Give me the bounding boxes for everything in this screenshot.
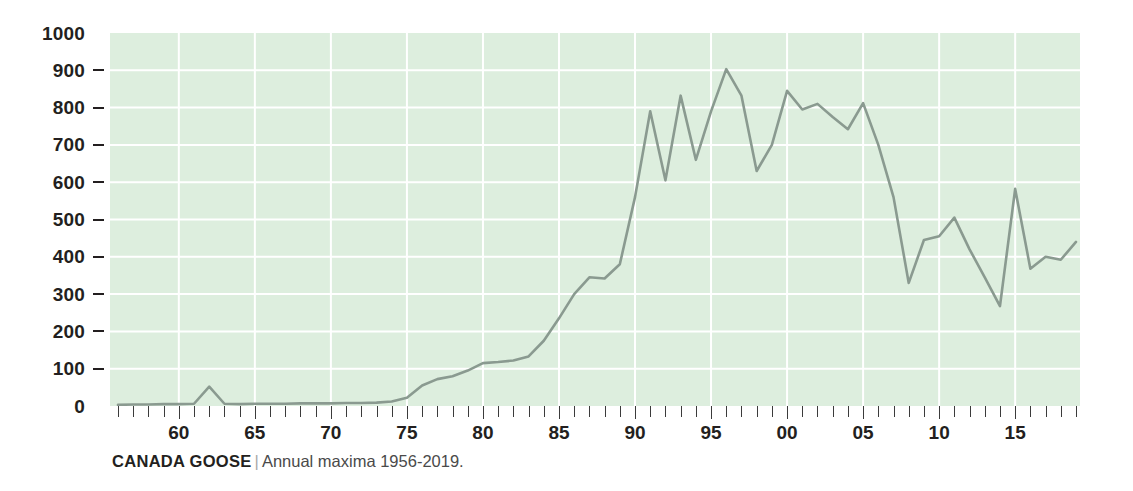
x-axis-minor-tick — [133, 406, 134, 417]
x-axis-minor-tick — [498, 406, 499, 417]
y-axis-tick-label: 200 — [53, 322, 85, 341]
x-axis-minor-tick — [544, 406, 545, 417]
x-axis-minor-tick — [1030, 406, 1031, 417]
y-axis-tick-label: 400 — [53, 247, 85, 266]
x-axis-minor-tick — [270, 406, 271, 417]
x-axis-minor-tick — [148, 406, 149, 417]
y-axis-tick-label: 1000 — [42, 24, 85, 43]
x-axis-major-tick — [255, 406, 256, 419]
x-axis-tick-label: 90 — [624, 423, 645, 442]
x-axis-minor-tick — [772, 406, 773, 417]
x-axis-minor-tick — [802, 406, 803, 417]
y-axis-tick-mark — [93, 405, 104, 407]
x-axis-major-tick — [1015, 406, 1016, 419]
x-axis-minor-tick — [377, 406, 378, 417]
x-axis-minor-tick — [757, 406, 758, 417]
x-axis: 606570758085909500051015 — [110, 406, 1080, 456]
caption-separator: | — [252, 452, 262, 470]
y-axis-tick-mark — [93, 219, 104, 221]
x-axis-minor-tick — [453, 406, 454, 417]
x-axis-major-tick — [559, 406, 560, 419]
chart-figure: 01002003004005006007008009001000 6065707… — [0, 0, 1133, 491]
x-axis-major-tick — [711, 406, 712, 419]
x-axis-minor-tick — [300, 406, 301, 417]
x-axis-minor-tick — [848, 406, 849, 417]
x-axis-minor-tick — [650, 406, 651, 417]
x-axis-minor-tick — [970, 406, 971, 417]
y-axis: 01002003004005006007008009001000 — [0, 33, 110, 406]
y-axis-tick-mark — [93, 144, 104, 146]
x-axis-minor-tick — [620, 406, 621, 417]
x-axis-tick-label: 85 — [548, 423, 569, 442]
x-axis-minor-tick — [316, 406, 317, 417]
x-axis-minor-tick — [529, 406, 530, 417]
x-axis-minor-tick — [1046, 406, 1047, 417]
x-axis-tick-label: 65 — [244, 423, 265, 442]
x-axis-tick-label: 15 — [1005, 423, 1026, 442]
x-axis-minor-tick — [164, 406, 165, 417]
x-axis-minor-tick — [726, 406, 727, 417]
series-line-annual-maxima — [118, 69, 1076, 405]
x-axis-minor-tick — [954, 406, 955, 417]
x-axis-minor-tick — [1000, 406, 1001, 417]
x-axis-major-tick — [863, 406, 864, 419]
x-axis-minor-tick — [468, 406, 469, 417]
x-axis-major-tick — [407, 406, 408, 419]
x-axis-tick-label: 75 — [396, 423, 417, 442]
x-axis-minor-tick — [985, 406, 986, 417]
y-axis-tick-label: 900 — [53, 61, 85, 80]
y-axis-tick-label: 500 — [53, 210, 85, 229]
y-axis-tick-mark — [93, 256, 104, 258]
y-axis-tick-label: 300 — [53, 285, 85, 304]
x-axis-minor-tick — [605, 406, 606, 417]
x-axis-minor-tick — [589, 406, 590, 417]
x-axis-minor-tick — [240, 406, 241, 417]
caption-description: Annual maxima 1956-2019. — [262, 452, 464, 470]
x-axis-tick-label: 80 — [472, 423, 493, 442]
x-axis-minor-tick — [194, 406, 195, 417]
y-axis-tick-mark — [93, 69, 104, 71]
x-axis-major-tick — [331, 406, 332, 419]
x-axis-minor-tick — [224, 406, 225, 417]
y-axis-tick-mark — [93, 32, 104, 34]
x-axis-major-tick — [635, 406, 636, 419]
y-axis-tick-mark — [93, 107, 104, 109]
y-axis-tick-label: 600 — [53, 173, 85, 192]
y-axis-tick-label: 700 — [53, 135, 85, 154]
x-axis-minor-tick — [118, 406, 119, 417]
x-axis-minor-tick — [209, 406, 210, 417]
x-axis-minor-tick — [392, 406, 393, 417]
x-axis-minor-tick — [665, 406, 666, 417]
x-axis-minor-tick — [574, 406, 575, 417]
y-axis-tick-mark — [93, 368, 104, 370]
caption-species: CANADA GOOSE — [112, 452, 252, 470]
y-axis-tick-label: 0 — [74, 397, 85, 416]
x-axis-tick-label: 60 — [168, 423, 189, 442]
x-axis-major-tick — [939, 406, 940, 419]
plot-area — [110, 33, 1080, 406]
x-axis-minor-tick — [894, 406, 895, 417]
x-axis-minor-tick — [909, 406, 910, 417]
x-axis-minor-tick — [1076, 406, 1077, 417]
x-axis-tick-label: 70 — [320, 423, 341, 442]
y-axis-tick-label: 800 — [53, 98, 85, 117]
y-axis-tick-mark — [93, 293, 104, 295]
x-axis-minor-tick — [741, 406, 742, 417]
y-axis-tick-mark — [93, 330, 104, 332]
x-axis-minor-tick — [361, 406, 362, 417]
chart-caption: CANADA GOOSE|Annual maxima 1956-2019. — [112, 452, 464, 472]
x-axis-minor-tick — [878, 406, 879, 417]
x-axis-major-tick — [787, 406, 788, 419]
x-axis-minor-tick — [833, 406, 834, 417]
x-axis-minor-tick — [696, 406, 697, 417]
x-axis-minor-tick — [513, 406, 514, 417]
x-axis-minor-tick — [422, 406, 423, 417]
x-axis-minor-tick — [1061, 406, 1062, 417]
x-axis-minor-tick — [346, 406, 347, 417]
x-axis-minor-tick — [285, 406, 286, 417]
x-axis-tick-label: 05 — [853, 423, 874, 442]
x-axis-minor-tick — [924, 406, 925, 417]
x-axis-tick-label: 00 — [777, 423, 798, 442]
x-axis-minor-tick — [437, 406, 438, 417]
y-axis-tick-label: 100 — [53, 359, 85, 378]
